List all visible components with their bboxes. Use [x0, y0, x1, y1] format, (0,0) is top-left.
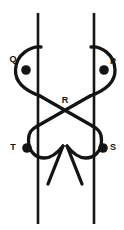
- diagram-canvas: Q P R T S: [0, 0, 124, 230]
- node-label-s: S: [110, 142, 116, 152]
- node-label-t: T: [10, 142, 16, 152]
- node-dot-t: [22, 143, 32, 153]
- node-dot-q: [21, 65, 31, 75]
- diagram-svg: Q P R T S: [0, 0, 124, 230]
- node-label-p: P: [110, 56, 116, 66]
- right-strand-lower-loop: [67, 126, 102, 158]
- left-strand-lower-loop: [29, 126, 64, 158]
- node-dot-p: [99, 65, 109, 75]
- node-label-q: Q: [9, 54, 16, 64]
- vertical-lines-group: [38, 13, 94, 224]
- node-label-r: R: [62, 95, 69, 105]
- node-dot-s: [98, 143, 108, 153]
